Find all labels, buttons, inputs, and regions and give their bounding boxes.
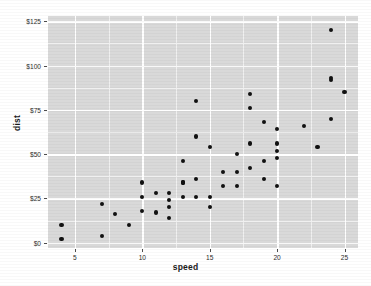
data-point <box>113 212 117 216</box>
data-point <box>59 223 63 227</box>
x-tick-label: 20 <box>273 254 280 261</box>
data-point <box>221 184 225 188</box>
data-point <box>248 141 252 145</box>
data-point <box>248 166 252 170</box>
data-point <box>194 177 198 181</box>
data-point <box>329 28 333 32</box>
data-point <box>140 209 144 213</box>
x-tick-mark <box>345 249 346 252</box>
y-tick-label: $100 <box>26 62 41 69</box>
y-tick-mark <box>44 243 47 244</box>
y-tick-label: $0 <box>34 239 41 246</box>
gridline-vertical-minor <box>311 16 312 248</box>
y-tick-label: $25 <box>30 195 41 202</box>
gridline-vertical-major <box>277 16 278 248</box>
y-tick-label: $50 <box>30 151 41 158</box>
data-point <box>154 191 158 195</box>
data-point <box>181 195 185 199</box>
y-tick-mark <box>44 154 47 155</box>
data-point <box>248 92 252 96</box>
gridline-horizontal-major <box>48 110 358 111</box>
data-point <box>235 184 239 188</box>
data-point <box>167 205 171 209</box>
gridline-horizontal-major <box>48 154 358 155</box>
y-tick-mark <box>44 66 47 67</box>
x-tick-mark <box>142 249 143 252</box>
data-point <box>275 156 279 160</box>
data-point <box>181 180 185 184</box>
data-point <box>262 120 266 124</box>
x-axis-title: speed <box>0 262 371 272</box>
data-point <box>181 159 185 163</box>
data-point <box>100 202 104 206</box>
y-tick-mark <box>44 21 47 22</box>
x-tick-mark <box>210 249 211 252</box>
x-tick-label: 25 <box>341 254 348 261</box>
gridline-horizontal-major <box>48 66 358 67</box>
data-point <box>275 141 279 145</box>
data-point <box>275 184 279 188</box>
gridline-horizontal-major <box>48 21 358 22</box>
data-point <box>315 145 319 149</box>
x-tick-mark <box>75 249 76 252</box>
x-tick-label: 5 <box>73 254 77 261</box>
data-point <box>262 177 266 181</box>
x-tick-label: 10 <box>139 254 146 261</box>
data-point <box>167 198 171 202</box>
data-point <box>275 127 279 131</box>
scatter-plot-figure: dist speed $0$25$50$75$100$125 510152025 <box>0 0 371 286</box>
data-point <box>275 149 279 153</box>
data-point <box>59 237 63 241</box>
y-tick-label: $75 <box>30 106 41 113</box>
data-point <box>167 216 171 220</box>
data-point <box>167 191 171 195</box>
x-tick-label: 15 <box>206 254 213 261</box>
data-point <box>194 134 198 138</box>
gridline-horizontal-major <box>48 243 358 244</box>
y-tick-label: $125 <box>26 18 41 25</box>
data-point <box>235 170 239 174</box>
data-point <box>208 195 212 199</box>
data-point <box>154 210 158 214</box>
data-point <box>208 145 212 149</box>
data-point <box>262 159 266 163</box>
y-tick-mark <box>44 110 47 111</box>
data-point <box>235 152 239 156</box>
gridline-horizontal-major <box>48 198 358 199</box>
data-point <box>140 180 144 184</box>
data-point <box>302 124 306 128</box>
gridline-vertical-major <box>345 16 346 248</box>
gridline-vertical-minor <box>109 16 110 248</box>
gridline-vertical-minor <box>243 16 244 248</box>
data-point <box>342 90 346 94</box>
plot-panel <box>48 16 358 248</box>
x-tick-mark <box>277 249 278 252</box>
gridline-vertical-minor <box>176 16 177 248</box>
gridline-vertical-major <box>75 16 76 248</box>
gridline-vertical-major <box>210 16 211 248</box>
gridline-vertical-major <box>142 16 143 248</box>
data-point <box>100 234 104 238</box>
data-point <box>221 170 225 174</box>
y-axis-title: dist <box>12 111 22 135</box>
data-point <box>127 223 131 227</box>
data-point <box>208 205 212 209</box>
data-point <box>329 117 333 121</box>
data-point <box>194 99 198 103</box>
y-tick-mark <box>44 198 47 199</box>
